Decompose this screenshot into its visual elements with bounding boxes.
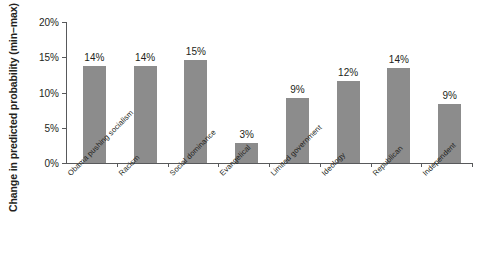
bar-value-label: 15% (186, 46, 206, 57)
y-tick-label: 5% (45, 122, 59, 133)
y-tick-mark (62, 163, 66, 164)
bar-value-label: 9% (442, 90, 456, 101)
y-tick-mark (62, 93, 66, 94)
bar-value-label: 14% (389, 54, 409, 65)
y-axis-title: Change in predicted probability (min–max… (4, 12, 22, 212)
bar-value-label: 3% (239, 129, 253, 140)
y-tick-label: 20% (39, 17, 59, 28)
x-tick-mark (117, 163, 118, 167)
bar-value-label: 12% (338, 67, 358, 78)
x-tick-mark (218, 163, 219, 167)
y-axis-line (66, 22, 67, 163)
y-tick-label: 0% (45, 158, 59, 169)
bar (134, 66, 157, 163)
y-tick-mark (62, 128, 66, 129)
x-tick-mark (371, 163, 372, 167)
x-tick-mark (269, 163, 270, 167)
bar-chart: Change in predicted probability (min–max… (0, 0, 485, 266)
bar-value-label: 9% (290, 84, 304, 95)
y-tick-label: 15% (39, 52, 59, 63)
x-tick-mark (472, 163, 473, 167)
y-tick-mark (62, 57, 66, 58)
y-tick-mark (62, 22, 66, 23)
x-tick-mark (320, 163, 321, 167)
x-tick-mark (421, 163, 422, 167)
bar-value-label: 14% (135, 52, 155, 63)
y-tick-label: 10% (39, 87, 59, 98)
x-tick-mark (168, 163, 169, 167)
bar-value-label: 14% (84, 52, 104, 63)
plot-area: 0%5%10%15%20% 14%14%15%3%9%12%14%9% (66, 22, 472, 163)
